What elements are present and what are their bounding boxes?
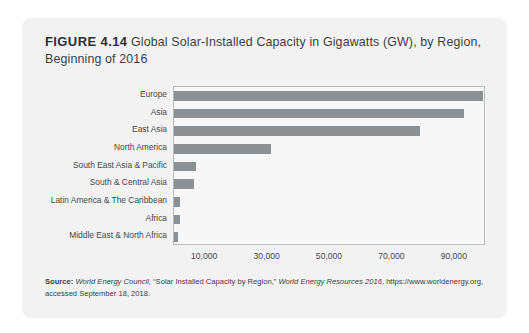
y-axis-tick-label: Latin America & The Caribbean xyxy=(51,192,167,210)
y-axis-tick-label: Africa xyxy=(146,210,167,228)
bar xyxy=(174,179,194,189)
figure-title: FIGURE 4.14 Global Solar-Installed Capac… xyxy=(45,34,485,67)
bar xyxy=(174,91,483,101)
x-axis-tick-label: 50,000 xyxy=(316,251,342,261)
x-axis-tick-label: 70,000 xyxy=(378,251,404,261)
plot-area xyxy=(173,86,485,245)
bar xyxy=(174,126,420,136)
y-axis-tick-label: South & Central Asia xyxy=(90,174,167,192)
y-axis-tick-label: Europe xyxy=(140,86,167,104)
bar xyxy=(174,197,180,207)
x-axis-tick-label: 90,000 xyxy=(441,251,467,261)
y-axis-tick-label: South East Asia & Pacific xyxy=(73,157,167,175)
bar xyxy=(174,232,178,242)
source-publication: World Energy Resources 2016 xyxy=(278,277,381,286)
y-axis-tick-label: North America xyxy=(114,139,167,157)
source-tail: , xyxy=(382,277,384,286)
y-axis-tick-label: Middle East & North Africa xyxy=(69,227,167,245)
y-axis-tick-label: East Asia xyxy=(132,121,167,139)
bar xyxy=(174,215,180,225)
chart: EuropeAsiaEast AsiaNorth AmericaSouth Ea… xyxy=(45,86,485,276)
y-axis-tick-label: Asia xyxy=(151,104,167,122)
bar xyxy=(174,109,464,119)
y-axis-labels: EuropeAsiaEast AsiaNorth AmericaSouth Ea… xyxy=(45,86,171,245)
source-label: Source: xyxy=(45,277,73,286)
source-note: Source: World Energy Council, “Solar Ins… xyxy=(45,276,489,299)
x-axis: 10,00030,00050,00070,00090,000 xyxy=(173,245,485,275)
x-axis-tick-label: 30,000 xyxy=(253,251,279,261)
source-publisher: World Energy Council, xyxy=(75,277,151,286)
figure-number: FIGURE 4.14 xyxy=(45,34,127,49)
source-article: “Solar Installed Capacity by Region,” xyxy=(153,277,276,286)
bar xyxy=(174,162,196,172)
figure-card: FIGURE 4.14 Global Solar-Installed Capac… xyxy=(22,18,507,318)
bar xyxy=(174,144,271,154)
x-axis-tick-label: 10,000 xyxy=(191,251,217,261)
